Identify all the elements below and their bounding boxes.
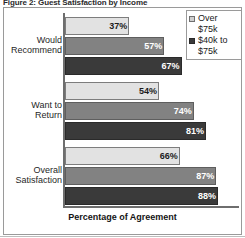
bar-value-label: 37%	[103, 17, 127, 35]
legend-label-continuation: $75k	[189, 24, 239, 35]
bar-value-label: 54%	[133, 82, 157, 100]
bar-group-want-to-return: 54% 74% 81%	[65, 81, 239, 141]
category-label-line2: Satisfaction	[6, 175, 62, 185]
bar-group-overall-satisfaction: 66% 87% 88%	[65, 146, 239, 206]
category-label-line1: Want to Return	[6, 100, 62, 120]
category-label-line1: Overall	[6, 165, 62, 175]
bar-value-label: 88%	[192, 187, 216, 205]
bar-value-label: 66%	[154, 147, 178, 165]
bar-value-label: 87%	[190, 167, 214, 185]
figure-caption-text: Guest Satisfaction by Income	[36, 0, 147, 7]
figure-caption-label: Figure 2:	[3, 0, 36, 7]
legend-label: Over	[198, 13, 218, 23]
chart-legend: Over $75k $40k to $75k	[186, 10, 242, 60]
legend-entry-40k-to-75k[interactable]: $40k to	[189, 35, 239, 46]
figure-caption: Figure 2: Guest Satisfaction by Income	[3, 0, 243, 7]
legend-swatch-icon	[189, 38, 195, 44]
bar-value-label: 74%	[168, 102, 192, 120]
page-rule-divider	[0, 236, 245, 237]
bar-value-label: 57%	[138, 37, 162, 55]
bar-value-label: 67%	[156, 57, 180, 75]
legend-swatch-icon	[189, 16, 195, 22]
category-label-line2: Recommend	[6, 45, 62, 55]
chart-frame: 37% 57% 67% 54% 74%	[3, 7, 242, 235]
category-label-want-to-return: Want to Return	[6, 100, 62, 120]
category-axis-line	[63, 206, 239, 208]
x-axis-title: Percentage of Agreement	[4, 212, 241, 222]
category-label-overall-satisfaction: Overall Satisfaction	[6, 165, 62, 185]
legend-label-continuation: $75k	[189, 46, 239, 57]
category-label-line1: Would	[6, 35, 62, 45]
bar-value-label: 81%	[180, 122, 204, 140]
legend-entry-over-75k[interactable]: Over	[189, 13, 239, 24]
legend-label: $40k to	[198, 35, 228, 45]
figure-container: Figure 2: Guest Satisfaction by Income 3…	[0, 0, 245, 238]
category-label-would-recommend: Would Recommend	[6, 35, 62, 55]
